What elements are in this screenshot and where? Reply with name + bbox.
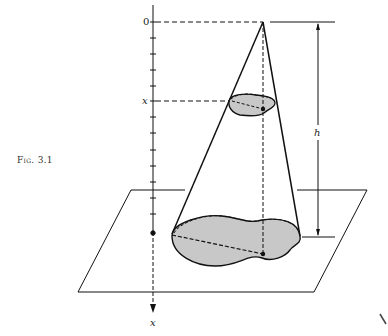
cone-edges bbox=[172, 22, 300, 236]
origin-label: 0 bbox=[143, 16, 149, 27]
base-region bbox=[172, 216, 300, 266]
axis-arrow-icon bbox=[150, 304, 156, 313]
x-axis bbox=[150, 5, 156, 313]
axis-x-label: x bbox=[150, 317, 156, 328]
base-center-point bbox=[261, 252, 265, 256]
guide-lines bbox=[156, 22, 263, 101]
stray-mark bbox=[380, 314, 386, 324]
section-x-label: x bbox=[142, 95, 148, 106]
cross-section-region bbox=[229, 94, 275, 116]
section-center-point bbox=[261, 107, 265, 111]
height-label: h bbox=[314, 127, 320, 138]
cone-cross-section-diagram: 0 x x h bbox=[0, 0, 388, 336]
base-level-point bbox=[151, 231, 155, 235]
height-dimension bbox=[270, 22, 335, 237]
